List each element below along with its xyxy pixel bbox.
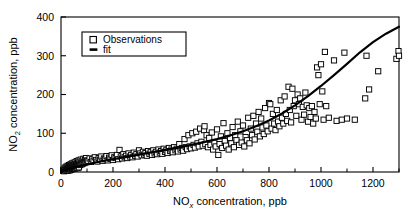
- data-point-marker: [364, 53, 369, 58]
- data-point-marker: [202, 124, 207, 129]
- data-point-marker: [216, 152, 221, 157]
- legend-marker-observations: [90, 37, 96, 43]
- data-point-marker: [214, 127, 219, 132]
- data-point-marker: [263, 105, 268, 110]
- data-point-marker: [259, 116, 264, 121]
- data-point-marker: [309, 104, 314, 109]
- data-point-marker: [252, 137, 257, 142]
- x-tick-label: 1200: [361, 177, 385, 189]
- data-points-layer: [60, 49, 401, 174]
- x-tick-label: 200: [104, 177, 122, 189]
- data-point-marker: [231, 145, 236, 150]
- data-point-marker: [326, 115, 331, 120]
- data-point-marker: [282, 94, 287, 99]
- data-point-marker: [396, 53, 401, 58]
- y-tick-label: 100: [36, 127, 54, 139]
- data-point-marker: [240, 123, 245, 128]
- data-point-marker: [317, 102, 322, 107]
- data-point-marker: [264, 123, 269, 128]
- data-point-marker: [363, 96, 368, 101]
- data-point-marker: [299, 117, 304, 122]
- legend-label-observations: Observations: [103, 34, 162, 45]
- scatter-plot: 0200400600800100012000100200300400 Obser…: [0, 0, 416, 215]
- data-point-marker: [320, 89, 325, 94]
- data-point-marker: [367, 87, 372, 92]
- y-tick-label: 300: [36, 50, 54, 62]
- data-point-marker: [226, 147, 231, 152]
- x-tick-label: 600: [208, 177, 226, 189]
- data-point-marker: [318, 62, 323, 67]
- data-point-marker: [230, 124, 235, 129]
- data-point-marker: [352, 117, 357, 122]
- data-point-marker: [246, 115, 251, 120]
- y-tick-label: 0: [48, 166, 54, 178]
- data-point-marker: [247, 141, 252, 146]
- data-point-marker: [344, 116, 349, 121]
- x-tick-label: 800: [260, 177, 278, 189]
- data-point-marker: [290, 86, 295, 91]
- y-axis-title: NO2 concentration, ppb: [7, 37, 22, 151]
- chart-figure: 0200400600800100012000100200300400 Obser…: [0, 0, 416, 215]
- data-point-marker: [289, 120, 294, 125]
- data-point-marker: [321, 117, 326, 122]
- data-point-marker: [251, 113, 256, 118]
- data-point-marker: [235, 119, 240, 124]
- x-tick-label: 0: [58, 177, 64, 189]
- chart-legend[interactable]: Observationsfit: [82, 32, 186, 56]
- data-point-marker: [268, 102, 273, 107]
- y-tick-label: 200: [36, 88, 54, 100]
- data-point-marker: [303, 90, 308, 95]
- data-point-marker: [324, 104, 329, 109]
- data-point-marker: [322, 49, 327, 54]
- x-axis-title: NOx concentration, ppb: [173, 195, 287, 210]
- data-point-marker: [302, 112, 307, 117]
- data-point-marker: [334, 118, 339, 123]
- x-tick-label: 400: [156, 177, 174, 189]
- data-point-marker: [312, 109, 317, 114]
- data-point-marker: [313, 116, 318, 121]
- data-point-marker: [221, 121, 226, 126]
- data-point-marker: [308, 114, 313, 119]
- y-tick-label: 400: [36, 11, 54, 23]
- data-point-marker: [331, 58, 336, 63]
- data-point-marker: [342, 50, 347, 55]
- data-point-marker: [316, 73, 321, 78]
- data-point-marker: [376, 69, 381, 74]
- data-point-marker: [209, 130, 214, 135]
- data-point-marker: [294, 113, 299, 118]
- data-point-marker: [339, 117, 344, 122]
- data-point-marker: [274, 107, 279, 112]
- legend-label-fit: fit: [103, 44, 111, 55]
- x-tick-label: 1000: [309, 177, 333, 189]
- data-point-marker: [242, 144, 247, 149]
- data-point-marker: [311, 121, 316, 126]
- data-point-marker: [256, 109, 261, 114]
